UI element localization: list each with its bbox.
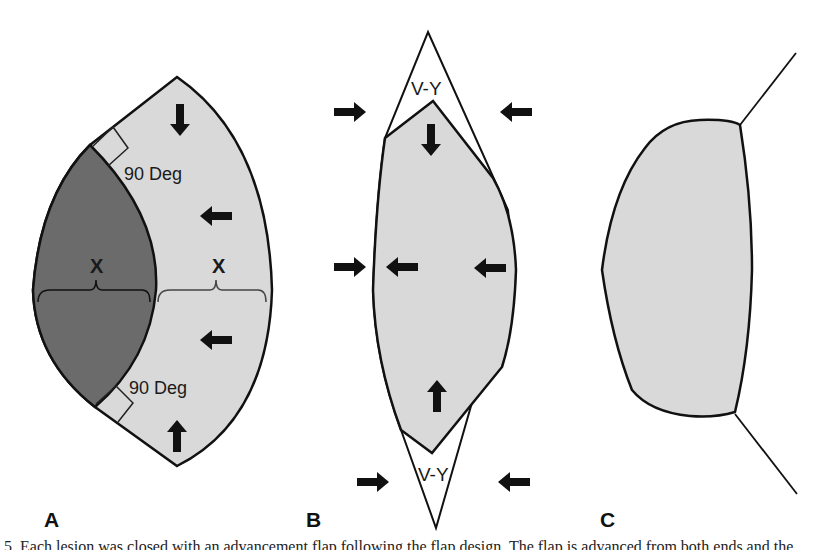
angle-label-top: 90 Deg bbox=[124, 164, 182, 184]
figure-diagram: 90 Deg 90 Deg X X A V-Y V-Y B bbox=[0, 0, 830, 550]
figure-caption: 5. Each lesion was closed with an advanc… bbox=[0, 536, 830, 550]
width-label-left: X bbox=[90, 255, 104, 277]
incision-line-top bbox=[740, 53, 796, 125]
panel-c: C bbox=[600, 53, 797, 531]
panel-a: 90 Deg 90 Deg X X A bbox=[33, 77, 272, 531]
arrow-right-icon bbox=[357, 472, 389, 492]
angle-label-bottom: 90 Deg bbox=[129, 378, 187, 398]
vy-label-bottom: V-Y bbox=[418, 464, 449, 485]
panel-label-b: B bbox=[306, 508, 321, 531]
arrow-left-icon bbox=[498, 472, 530, 492]
arrow-left-icon bbox=[500, 102, 532, 122]
arrow-right-icon bbox=[334, 102, 366, 122]
panel-c-flap bbox=[602, 120, 752, 417]
vy-label-top: V-Y bbox=[411, 78, 442, 99]
panel-label-c: C bbox=[600, 508, 615, 531]
panel-label-a: A bbox=[44, 508, 59, 531]
panel-b-flap bbox=[373, 101, 516, 453]
width-label-right: X bbox=[212, 255, 226, 277]
incision-line-bottom bbox=[735, 414, 797, 494]
panel-b: V-Y V-Y B bbox=[306, 32, 532, 531]
arrow-right-icon bbox=[334, 257, 366, 277]
